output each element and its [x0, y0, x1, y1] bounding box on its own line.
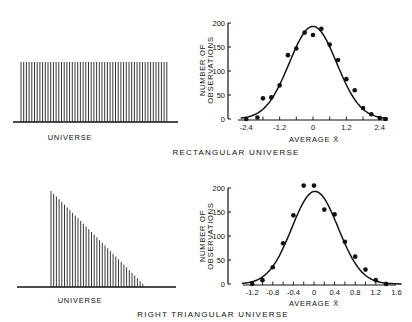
data-point [353, 254, 358, 259]
data-point [269, 95, 274, 100]
data-point [286, 53, 291, 58]
data-point [332, 212, 337, 217]
data-point [374, 278, 379, 283]
x-axis-title: AVERAGE X̄ [289, 135, 339, 144]
y-tick-label: 0 [221, 115, 225, 124]
x-tick-label: 1.6 [391, 288, 401, 297]
data-point [377, 116, 382, 121]
x-tick-label: 0 [311, 123, 315, 132]
y-axis-title-line2: OBSERVATIONS [206, 36, 215, 104]
universe-label-2: UNIVERSE [58, 296, 103, 305]
data-point [250, 282, 255, 287]
data-point [336, 58, 341, 63]
figure: UNIVERSE 050100150200-2.4-1.201.22.4AVER… [0, 0, 412, 322]
triangular-universe-diagram [17, 191, 176, 287]
x-tick-label: -0.4 [287, 288, 300, 297]
data-point [281, 241, 286, 246]
universe-label-1: UNIVERSE [48, 133, 93, 142]
caption-rectangular: RECTANGULAR UNIVERSE [173, 148, 300, 157]
x-tick-label: 0.4 [329, 288, 339, 297]
x-tick-label: -1.2 [246, 288, 259, 297]
y-axis-title-line2: OBSERVATIONS [206, 202, 215, 270]
y-tick-label: 200 [212, 19, 225, 28]
data-point [319, 26, 324, 31]
x-axis-title: AVERAGE X̄ [289, 299, 339, 308]
y-tick-label: 50 [217, 256, 225, 265]
data-point [302, 30, 307, 35]
data-point [383, 117, 388, 122]
data-point [244, 117, 249, 122]
x-tick-label: 1.2 [341, 123, 351, 132]
data-point [311, 33, 316, 38]
caption-right-triangular: RIGHT TRIANGULAR UNIVERSE [137, 310, 289, 319]
x-tick-label: -2.4 [240, 123, 253, 132]
data-point [369, 112, 374, 117]
data-point [344, 77, 349, 82]
data-point [255, 115, 260, 120]
x-tick-label: 0 [312, 288, 316, 297]
y-tick-label: 50 [217, 91, 225, 100]
y-tick-label: 0 [221, 280, 225, 289]
x-tick-label: 1.2 [371, 288, 381, 297]
x-tick-label: 2.4 [375, 123, 385, 132]
x-tick-label: 0.8 [350, 288, 360, 297]
data-point [343, 239, 348, 244]
data-point [294, 46, 299, 51]
normal-curve [241, 26, 388, 118]
data-point [291, 213, 296, 218]
data-point [301, 183, 306, 188]
chart-rectangular: 050100150200-2.4-1.201.22.4AVERAGE X̄NUM… [198, 19, 388, 145]
x-tick-label: -1.2 [273, 123, 286, 132]
data-point [312, 183, 317, 188]
normal-curve [242, 191, 402, 284]
data-point [271, 265, 276, 270]
data-point [260, 278, 265, 283]
y-tick-label: 200 [212, 184, 225, 193]
chart-right-triangular: 050100150200-1.2-0.8-0.400.40.81.21.6AVE… [198, 183, 402, 308]
data-point [277, 83, 282, 88]
rectangular-universe-diagram [13, 62, 178, 122]
data-point [361, 106, 366, 111]
x-tick-label: -0.8 [266, 288, 279, 297]
data-point [352, 88, 357, 93]
data-point [327, 42, 332, 47]
data-point [322, 207, 327, 212]
data-point [363, 267, 368, 272]
data-point [384, 282, 389, 287]
data-point [261, 96, 266, 101]
